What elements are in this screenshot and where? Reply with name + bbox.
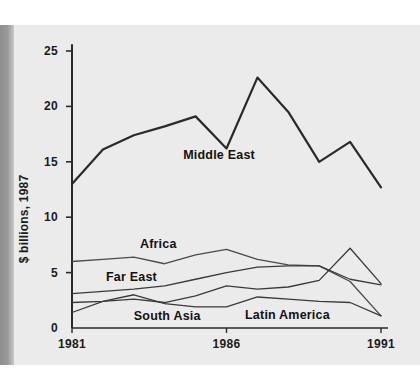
series-label-south-asia: South Asia [134, 309, 201, 323]
chart-figure: $ billions, 1987 0510152025198119861991M… [0, 0, 420, 378]
y-tick-label: 0 [32, 322, 58, 334]
series-line-middle-east [72, 78, 381, 188]
y-tick-label: 10 [32, 211, 58, 223]
chart-plot-area [0, 0, 420, 378]
chart-axes [66, 44, 388, 333]
series-label-africa: Africa [140, 237, 177, 251]
x-tick-label: 1986 [204, 338, 250, 350]
y-tick-label: 20 [32, 100, 58, 112]
series-line-latin-america [72, 295, 381, 316]
series-label-far-east: Far East [106, 270, 157, 284]
y-tick-label: 5 [32, 267, 58, 279]
y-tick-label: 25 [32, 45, 58, 57]
series-label-latin-america: Latin America [245, 308, 330, 322]
series-label-middle-east: Middle East [183, 148, 255, 162]
x-tick-label: 1991 [358, 338, 404, 350]
x-tick-label: 1981 [49, 338, 95, 350]
y-tick-label: 15 [32, 156, 58, 168]
y-axis-title: $ billions, 1987 [17, 171, 31, 267]
